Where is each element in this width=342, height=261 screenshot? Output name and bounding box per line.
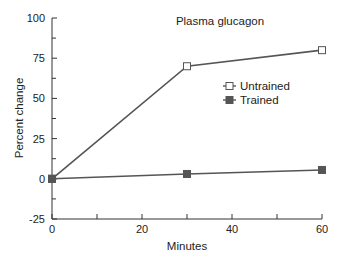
chart-title: Plasma glucagon <box>176 15 264 27</box>
series-layer <box>49 47 326 183</box>
y-tick-label: -25 <box>29 213 45 225</box>
x-tick-label: 20 <box>136 223 148 235</box>
x-tick-label: 0 <box>49 223 55 235</box>
y-tick-label: 100 <box>27 12 45 24</box>
legend-label: Trained <box>240 94 279 106</box>
series-untrained <box>49 47 326 183</box>
x-tick-label: 60 <box>316 223 328 235</box>
legend: UntrainedTrained <box>223 80 290 106</box>
series-trained <box>49 166 326 182</box>
line-chart: -2502550751000204060 Plasma glucagon Min… <box>0 0 342 261</box>
y-axis-label: Percent change <box>13 78 25 159</box>
legend-item-untrained: Untrained <box>223 80 290 92</box>
y-tick-label: 25 <box>33 133 45 145</box>
filled-square-marker <box>319 166 326 173</box>
axes: -2502550751000204060 <box>27 12 328 235</box>
legend-label: Untrained <box>240 80 290 92</box>
open-square-marker <box>184 63 191 70</box>
x-tick-label: 40 <box>226 223 238 235</box>
filled-square-icon <box>226 97 233 104</box>
filled-square-marker <box>49 175 56 182</box>
open-square-marker <box>319 47 326 54</box>
x-axis-label: Minutes <box>167 240 208 252</box>
y-tick-label: 50 <box>33 92 45 104</box>
legend-item-trained: Trained <box>223 94 279 106</box>
y-tick-label: 0 <box>39 173 45 185</box>
open-square-icon <box>226 83 233 90</box>
filled-square-marker <box>184 170 191 177</box>
y-tick-label: 75 <box>33 52 45 64</box>
